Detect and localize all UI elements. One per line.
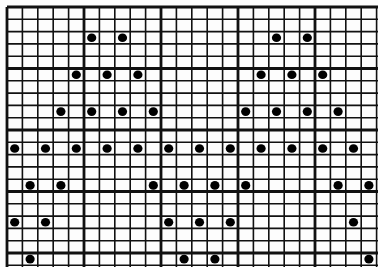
grid-dot (164, 218, 173, 227)
grid-dot (226, 144, 235, 153)
grid-dot (272, 107, 281, 116)
grid-dot (303, 34, 312, 43)
grid-dot (41, 144, 50, 153)
grid-dot (226, 218, 235, 227)
grid-dot (133, 70, 142, 79)
grid-dot (56, 181, 65, 190)
dot-grid-figure (0, 0, 378, 267)
grid-dot (257, 144, 266, 153)
grid-dot (334, 107, 343, 116)
grid-dot (72, 144, 81, 153)
grid-dot (149, 181, 158, 190)
grid-dot (87, 34, 96, 43)
grid-dot (272, 34, 281, 43)
grid-dot (133, 144, 142, 153)
grid-dot (180, 255, 189, 264)
grid-dot (41, 218, 50, 227)
grid-dot (318, 144, 327, 153)
minor-grid-lines (7, 7, 378, 267)
grid-dot (118, 107, 127, 116)
grid-dot (72, 70, 81, 79)
grid-dot (10, 144, 19, 153)
grid-dot (56, 107, 65, 116)
grid-dot (303, 107, 312, 116)
grid-dot (241, 181, 250, 190)
grid-dot (287, 70, 296, 79)
grid-dot (287, 144, 296, 153)
grid-dot (349, 218, 358, 227)
grid-dot (87, 107, 96, 116)
grid-dot (26, 255, 35, 264)
grid-dot (195, 218, 204, 227)
grid-dot (334, 181, 343, 190)
grid-dot (241, 107, 250, 116)
grid-dot (318, 70, 327, 79)
grid-dot (103, 70, 112, 79)
grid-dot (149, 107, 158, 116)
grid-dot (364, 181, 373, 190)
grid-dot (180, 181, 189, 190)
grid-dot (210, 255, 219, 264)
grid-dot (26, 181, 35, 190)
grid-dot (10, 218, 19, 227)
grid-dot (364, 255, 373, 264)
grid-dot (103, 144, 112, 153)
grid-dot (118, 34, 127, 43)
grid-dot (195, 144, 204, 153)
grid-dot (210, 181, 219, 190)
graph-paper-grid (0, 0, 378, 267)
grid-dot (164, 144, 173, 153)
grid-dot (257, 70, 266, 79)
grid-dot (349, 144, 358, 153)
